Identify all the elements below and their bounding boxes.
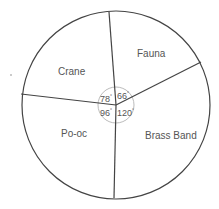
label-fauna: Fauna [137, 48, 166, 59]
label-po-oc: Po-oc [61, 128, 87, 139]
label-brass-band: Brass Band [145, 130, 197, 141]
stray-dot [10, 74, 12, 76]
pie-chart: Fauna Crane Po-oc Brass Band 78° 66° 96°… [0, 0, 219, 209]
label-crane: Crane [58, 66, 86, 77]
angle-brass-band: 120° [117, 107, 134, 118]
